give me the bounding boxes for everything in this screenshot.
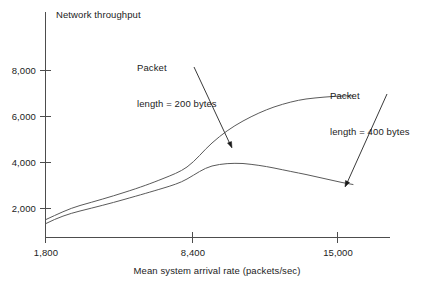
annotation-200-bytes-line1: Packet [137, 62, 217, 74]
annotation-400-bytes-line2: length = 400 bytes [330, 126, 410, 138]
annotation-400-bytes: Packet length = 400 bytes [330, 66, 410, 162]
x-tick-label-1800: 1,800 [21, 247, 71, 259]
y-tick-label-8000: 8,000 [0, 65, 36, 77]
x-tick-label-8400: 8,400 [168, 247, 218, 259]
annotation-200-bytes-line2: length = 200 bytes [137, 98, 217, 110]
leader-arrowhead-200-bytes [228, 142, 233, 149]
chart-figure: Network throughput 8,000 6,000 4,000 2,0… [0, 0, 439, 286]
chart-title: Network throughput [56, 9, 141, 21]
y-tick-label-2000: 2,000 [0, 203, 36, 215]
y-tick-label-6000: 6,000 [0, 111, 36, 123]
annotation-400-bytes-line1: Packet [330, 90, 410, 102]
y-tick-label-4000: 4,000 [0, 157, 36, 169]
annotation-200-bytes: Packet length = 200 bytes [137, 38, 217, 134]
x-tick-label-15000: 15,000 [312, 247, 364, 259]
series-curve-400-bytes [46, 163, 353, 223]
x-axis-title: Mean system arrival rate (packets/sec) [92, 265, 342, 277]
